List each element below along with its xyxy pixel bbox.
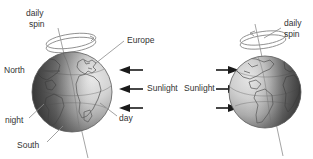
right-daily-spin-label-line1: daily	[284, 18, 302, 28]
left-daily-spin-label-line2: spin	[29, 19, 45, 29]
diagram-canvas: daily spin Europe North night day South …	[0, 0, 313, 159]
day-label: day	[119, 113, 133, 123]
sunlight-left-label: Sunlight	[147, 83, 178, 93]
left-globe-surface	[32, 52, 112, 132]
right-daily-spin-label-line2: spin	[284, 29, 300, 39]
right-globe-group: daily spin	[228, 18, 304, 156]
sunlight-right-label: Sunlight	[184, 83, 215, 93]
left-daily-spin-label-line1: daily	[26, 8, 44, 18]
left-globe-group: daily spin Europe North night day South	[4, 8, 155, 158]
north-label: North	[4, 65, 25, 75]
sunlight-left-ray-3	[119, 104, 143, 112]
leader-right-daily-spin	[264, 28, 281, 38]
sunlight-left-group: Sunlight	[119, 66, 178, 112]
sunlight-left-ray-1	[119, 66, 143, 74]
south-label: South	[17, 140, 39, 150]
night-label: night	[5, 115, 24, 125]
sunlight-left-ray-2	[119, 85, 143, 93]
right-daily-spin-ellipse	[239, 28, 286, 51]
day-night-diagram: daily spin Europe North night day South …	[0, 0, 313, 159]
leader-europe	[96, 41, 124, 63]
europe-label: Europe	[127, 35, 155, 45]
